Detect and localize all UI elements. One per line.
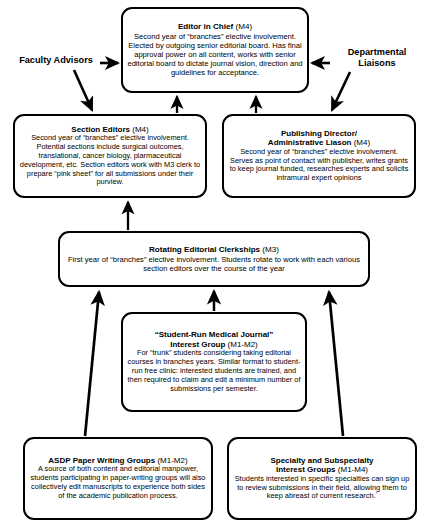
node-editor-in-chief-title-text: Editor in Chief <box>178 22 233 31</box>
node-publishing-director-title: Publishing Director/ Administrative Lias… <box>268 129 370 148</box>
node-specialty-title: Specialty and Subspecialty Interest Grou… <box>270 456 373 475</box>
node-section-editors-body: Second year of “branches” elective invol… <box>19 134 201 187</box>
node-specialty-and-subspecialty-interest-groups[interactable]: Specialty and Subspecialty Interest Grou… <box>227 437 417 520</box>
node-clerkships-title-text: Rotating Editorial Clerkships <box>149 245 260 254</box>
node-interest-group-body: For “trunk” students considering taking … <box>127 349 301 393</box>
node-asdp-paper-writing-groups[interactable]: ASDP Paper Writing Groups (M1-M2) A sour… <box>23 437 213 520</box>
node-publishing-director-title-line1: Publishing Director/ <box>268 129 370 138</box>
flowchart-canvas: Faculty Advisors Departmental Liaisons E… <box>0 0 427 527</box>
node-publishing-director-year: (M4) <box>354 138 370 147</box>
node-publishing-director-body: Second year of “branches” elective invol… <box>228 148 410 184</box>
node-rotating-editorial-clerkships[interactable]: Rotating Editorial Clerkships (M3) First… <box>58 231 370 287</box>
node-editor-in-chief[interactable]: Editor in Chief (M4) Second year of “bra… <box>121 7 309 93</box>
node-publishing-director[interactable]: Publishing Director/ Administrative Lias… <box>222 114 416 198</box>
node-clerkships-title: Rotating Editorial Clerkships (M3) <box>149 245 279 255</box>
node-editor-in-chief-title: Editor in Chief (M4) <box>178 22 252 32</box>
node-student-run-medical-journal-interest-group[interactable]: “Student-Run Medical Journal” Interest G… <box>121 312 307 412</box>
node-editor-in-chief-body: Second year of “branches” elective invol… <box>127 32 303 78</box>
node-interest-group-title-line1: “Student-Run Medical Journal” <box>155 330 274 339</box>
node-specialty-body: Students interested in specific specialt… <box>233 475 411 502</box>
node-clerkships-body: First year of “branches” elective involv… <box>64 255 364 273</box>
edge-asdp-to-clerkships <box>85 292 99 436</box>
node-editor-in-chief-year: (M4) <box>235 22 252 31</box>
node-specialty-year: (M1-M4) <box>338 465 368 474</box>
node-interest-group-title: “Student-Run Medical Journal” Interest G… <box>155 330 274 349</box>
node-specialty-title-line2: Interest Groups <box>276 465 336 474</box>
node-asdp-body: A source of both content and editorial m… <box>29 465 207 501</box>
node-clerkships-year: (M3) <box>262 245 279 254</box>
edge-departmental-liaisons-to-publishing-director <box>332 72 350 110</box>
label-faculty-advisors: Faculty Advisors <box>14 55 98 66</box>
node-specialty-title-line1: Specialty and Subspecialty <box>270 456 373 465</box>
label-departmental-liaisons: Departmental Liaisons <box>334 47 420 69</box>
node-section-editors[interactable]: Section Editors (M4) Second year of “bra… <box>13 114 207 198</box>
edge-faculty-advisors-to-section-editors <box>74 70 92 110</box>
edge-specialty-to-clerkships <box>329 292 343 436</box>
node-publishing-director-title-line2: Administrative Liason <box>268 138 352 147</box>
